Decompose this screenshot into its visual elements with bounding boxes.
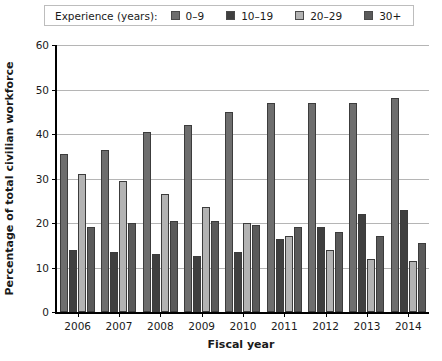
y-tick-mark-0 xyxy=(52,312,57,313)
bar-2009-0-9 xyxy=(184,125,192,312)
bar-2008-30+ xyxy=(170,221,178,312)
x-tick-label-2011: 2011 xyxy=(271,320,298,332)
bar-group-2007: 2007 xyxy=(98,45,139,312)
bar-2012-30+ xyxy=(335,232,343,312)
bar-2014-10-19 xyxy=(400,210,408,312)
bar-group-2010: 2010 xyxy=(222,45,263,312)
y-tick-label-60: 60 xyxy=(36,39,49,51)
bar-2006-20-29 xyxy=(78,174,86,312)
bar-group-2011: 2011 xyxy=(264,45,305,312)
x-tick-mark-2007 xyxy=(119,312,120,317)
x-tick-label-2013: 2013 xyxy=(354,320,381,332)
legend-swatch-20-29 xyxy=(295,11,304,20)
legend-entry-30-plus: 30+ xyxy=(364,10,401,22)
bar-2011-0-9 xyxy=(267,103,275,312)
x-tick-mark-2008 xyxy=(160,312,161,317)
bar-group-2006: 2006 xyxy=(57,45,98,312)
bar-2007-10-19 xyxy=(110,252,118,312)
x-tick-label-2008: 2008 xyxy=(147,320,174,332)
plot-area: 0102030405060 20062007200820092010201120… xyxy=(55,45,429,314)
legend-entry-20-29: 20–29 xyxy=(295,10,342,22)
x-tick-label-2014: 2014 xyxy=(395,320,422,332)
x-tick-label-2007: 2007 xyxy=(106,320,133,332)
bar-2014-20-29 xyxy=(409,261,417,312)
bar-2010-0-9 xyxy=(225,112,233,312)
bar-2013-10-19 xyxy=(358,214,366,312)
y-tick-label-30: 30 xyxy=(36,173,49,185)
x-tick-mark-2013 xyxy=(367,312,368,317)
y-tick-label-0: 0 xyxy=(42,306,49,318)
bar-2010-20-29 xyxy=(243,223,251,312)
y-axis-title: Percentage of total civilian workforce xyxy=(2,45,18,312)
x-tick-label-2006: 2006 xyxy=(64,320,91,332)
y-axis-title-text: Percentage of total civilian workforce xyxy=(4,62,17,296)
bar-2012-20-29 xyxy=(326,250,334,312)
bar-2008-10-19 xyxy=(152,254,160,312)
legend-entry-0-9: 0–9 xyxy=(171,10,205,22)
legend-label-20-29: 20–29 xyxy=(310,10,342,22)
bar-groups: 200620072008200920102011201220132014 xyxy=(57,45,429,312)
bar-2011-20-29 xyxy=(285,236,293,312)
legend-swatch-10-19 xyxy=(226,11,235,20)
bar-2006-30+ xyxy=(87,227,95,312)
bar-2013-20-29 xyxy=(367,259,375,312)
legend-swatch-30-plus xyxy=(364,11,373,20)
x-tick-mark-2012 xyxy=(326,312,327,317)
bar-2009-10-19 xyxy=(193,256,201,312)
bar-group-2009: 2009 xyxy=(181,45,222,312)
y-tick-label-20: 20 xyxy=(36,217,49,229)
x-tick-mark-2011 xyxy=(284,312,285,317)
bar-group-2012: 2012 xyxy=(305,45,346,312)
bar-group-2014: 2014 xyxy=(388,45,429,312)
legend-title: Experience (years): xyxy=(55,10,158,22)
y-tick-label-50: 50 xyxy=(36,84,49,96)
bar-2013-0-9 xyxy=(349,103,357,312)
bar-2008-20-29 xyxy=(161,194,169,312)
bar-2007-30+ xyxy=(128,223,136,312)
x-tick-label-2009: 2009 xyxy=(188,320,215,332)
x-tick-label-2012: 2012 xyxy=(312,320,339,332)
bar-group-2013: 2013 xyxy=(346,45,387,312)
y-tick-label-10: 10 xyxy=(36,262,49,274)
bar-2010-10-19 xyxy=(234,252,242,312)
bar-2007-20-29 xyxy=(119,181,127,312)
legend-entry-10-19: 10–19 xyxy=(226,10,273,22)
bar-2008-0-9 xyxy=(143,132,151,312)
x-tick-mark-2006 xyxy=(78,312,79,317)
bar-2006-10-19 xyxy=(69,250,77,312)
bar-2009-20-29 xyxy=(202,207,210,312)
bar-group-2008: 2008 xyxy=(140,45,181,312)
x-tick-label-2010: 2010 xyxy=(230,320,257,332)
x-axis-title: Fiscal year xyxy=(55,338,427,351)
bar-2007-0-9 xyxy=(101,150,109,312)
bar-2011-10-19 xyxy=(276,239,284,312)
bar-2012-0-9 xyxy=(308,103,316,312)
bar-2014-0-9 xyxy=(391,98,399,312)
legend-label-30-plus: 30+ xyxy=(379,10,401,22)
bar-2010-30+ xyxy=(252,225,260,312)
x-tick-mark-2009 xyxy=(202,312,203,317)
x-tick-mark-2014 xyxy=(408,312,409,317)
bar-2011-30+ xyxy=(294,227,302,312)
bar-2013-30+ xyxy=(376,236,384,312)
bar-2012-10-19 xyxy=(317,227,325,312)
legend-label-0-9: 0–9 xyxy=(186,10,205,22)
bar-2014-30+ xyxy=(418,243,426,312)
legend-label-10-19: 10–19 xyxy=(241,10,273,22)
y-tick-label-40: 40 xyxy=(36,128,49,140)
x-tick-mark-2010 xyxy=(243,312,244,317)
legend-swatch-0-9 xyxy=(171,11,180,20)
chart-legend: Experience (years): 0–9 10–19 20–29 30+ xyxy=(44,5,414,26)
bar-2009-30+ xyxy=(211,221,219,312)
bar-2006-0-9 xyxy=(60,154,68,312)
